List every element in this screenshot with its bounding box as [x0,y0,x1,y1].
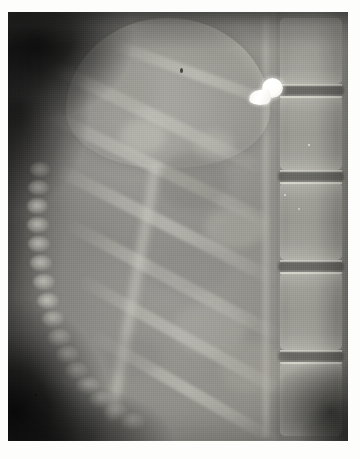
radiograph-page [0,0,360,459]
image-caption [8,443,348,457]
film-vignette [8,12,348,441]
radiograph-plate [8,12,348,441]
